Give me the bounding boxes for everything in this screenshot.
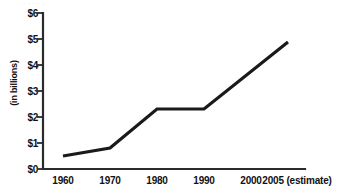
axis-spine-path <box>43 13 305 169</box>
line-chart: · · · · · · (in billions) $6 $5 $4 $3 $2… <box>0 0 349 189</box>
x-tick-label-2000: 2000 <box>240 175 261 186</box>
axis-spines <box>43 13 305 169</box>
x-tick-label-1990: 1990 <box>193 175 214 186</box>
x-tick-label-1960: 1960 <box>52 175 73 186</box>
x-tick-label-1980: 1980 <box>146 175 167 186</box>
series-polyline <box>63 42 288 156</box>
plot-area <box>0 0 349 189</box>
data-series-line <box>63 42 288 156</box>
x-tick-label-1970: 1970 <box>99 175 120 186</box>
x-tick-label-2005: 2005 (estimate) <box>262 175 331 186</box>
